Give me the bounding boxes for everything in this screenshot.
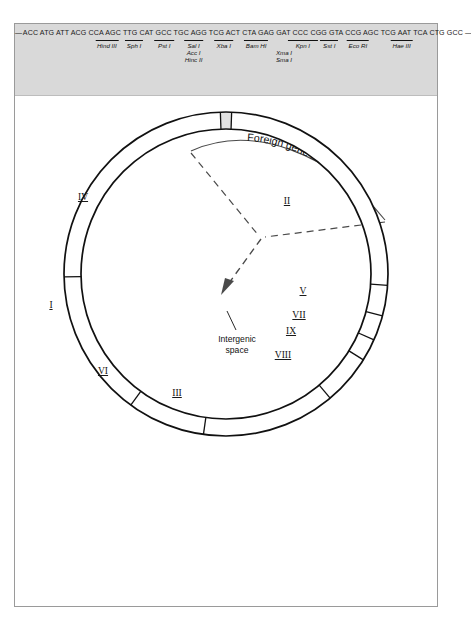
enzyme-hind-iii: Hind III	[96, 40, 119, 49]
intergenic-label-line2: space	[226, 345, 249, 355]
enzyme-name: Pst I	[154, 42, 174, 49]
plasmid-figure: Foreign gene insert Intergenic space IVI…	[15, 96, 437, 606]
segment-label-iv: IV	[78, 191, 88, 202]
enzyme-name: Xma I	[276, 49, 292, 56]
segment-label-viii: VIII	[275, 349, 292, 360]
enzyme-sph-i: Sph I	[125, 40, 143, 49]
polylinker-band: — ACC ATG ATT ACG CCA AGC TTG CAT GCC TG…	[15, 24, 437, 96]
segment-divider	[220, 112, 221, 129]
enzyme-name: Acc I	[185, 49, 203, 56]
enzyme-name: Sst I	[320, 42, 338, 49]
enzyme-xba-i: Xba I	[214, 40, 234, 49]
segment-label-ix: IX	[286, 325, 296, 336]
enzyme-group-acc-i: Acc IHinc II	[185, 49, 203, 64]
segment-label-vii: VII	[292, 309, 305, 320]
enzyme-name: Hae III	[390, 42, 413, 49]
sequence-trail-dash: —	[465, 29, 471, 37]
enzyme-name: Kpn I	[288, 42, 318, 49]
polylinker-sequence-row: — ACC ATG ATT ACG CCA AGC TTG CAT GCC TG…	[15, 29, 437, 37]
enzyme-hae-iii: Hae III	[390, 40, 413, 49]
enzyme-sst-i: Sst I	[320, 40, 338, 49]
enzyme-name: Sph I	[125, 42, 143, 49]
enzyme-name: Xba I	[214, 42, 234, 49]
enzyme-name: Sma I	[276, 56, 292, 63]
segment-label-i: I	[49, 299, 52, 310]
restriction-enzyme-row: Hind IIISph IPst ISal IXba IBam HIKpn IS…	[15, 40, 437, 80]
intergenic-label-line1: Intergenic	[218, 334, 256, 344]
segment-divider	[231, 112, 232, 129]
enzyme-name: Bam HI	[244, 42, 268, 49]
segment-label-ii: II	[284, 195, 290, 206]
callout-arrow-head	[221, 278, 234, 295]
sequence-text: ACC ATG ATT ACG CCA AGC TTG CAT GCC TGC …	[23, 29, 463, 37]
segment-label-vi: VI	[98, 365, 108, 376]
intergenic-space-gap	[64, 112, 388, 436]
plasmid-ring	[64, 112, 388, 436]
foreign-gene-callout: Foreign gene insert	[191, 131, 385, 295]
enzyme-bam-hi: Bam HI	[244, 40, 268, 49]
callout-leader-left	[191, 153, 259, 236]
figure-frame: — ACC ATG ATT ACG CCA AGC TTG CAT GCC TG…	[14, 23, 438, 607]
enzyme-name: Eco RI	[347, 42, 370, 49]
intergenic-annotation: Intergenic space	[218, 311, 256, 355]
enzyme-sal-i: Sal I	[184, 40, 204, 49]
sequence-lead-dash: —	[15, 29, 21, 37]
enzyme-name: Hinc II	[185, 56, 203, 63]
enzyme-name: Sal I	[184, 42, 204, 49]
segment-label-v: V	[300, 285, 307, 296]
enzyme-group-xma-i: Xma ISma I	[276, 49, 292, 64]
enzyme-name: Hind III	[96, 42, 119, 49]
intergenic-leader-line	[227, 311, 236, 330]
plasmid-inner-circle	[81, 129, 371, 419]
plasmid-diagram: Foreign gene insert Intergenic space IVI…	[15, 96, 437, 607]
enzyme-eco-ri: Eco RI	[347, 40, 370, 49]
segment-label-iii: III	[172, 387, 182, 398]
enzyme-kpn-i: Kpn I	[288, 40, 318, 49]
callout-arrow-shaft	[229, 239, 261, 283]
enzyme-pst-i: Pst I	[154, 40, 174, 49]
